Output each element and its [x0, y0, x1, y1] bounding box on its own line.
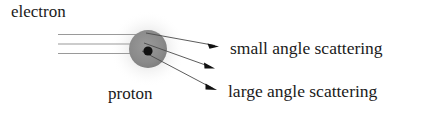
small-angle-arrowhead [208, 44, 220, 49]
small-angle-scattering-label: small angle scattering [230, 40, 383, 58]
proton-nucleus-dot [143, 46, 152, 55]
ray-arrowheads [204, 44, 219, 91]
proton-label: proton [108, 85, 152, 102]
electron-label: electron [11, 3, 66, 20]
medium-angle-arrowhead [204, 63, 215, 69]
scattering-diagram: electron proton small angle scattering l… [0, 0, 444, 117]
large-angle-scattering-label: large angle scattering [228, 83, 377, 101]
scattering-svg [0, 0, 444, 117]
large-angle-arrowhead [206, 84, 218, 91]
